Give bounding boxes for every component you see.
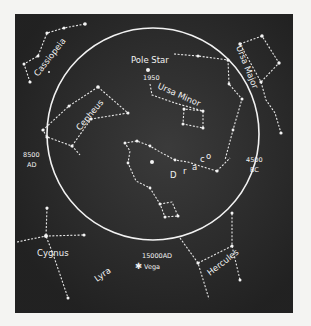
star: [45, 206, 48, 209]
star: [174, 159, 177, 162]
star: [182, 123, 185, 126]
star: [159, 203, 162, 206]
star: [70, 144, 73, 147]
star: [127, 112, 130, 115]
star: [45, 135, 48, 138]
star: [260, 34, 263, 37]
cygnus-crossbar: [17, 235, 84, 242]
cepheus-lines-2: [72, 87, 128, 146]
star: [215, 169, 218, 172]
label-15000-ad: 15000AD: [142, 252, 172, 260]
star: [164, 216, 167, 219]
label-draco-c: c: [200, 154, 205, 164]
label-ursa-major: Ursa Major: [234, 44, 261, 91]
star: [96, 85, 100, 89]
star-chart: Cassiopeia Ursa Major Pole Star 1950 Urs…: [0, 0, 311, 326]
star: [28, 80, 31, 83]
star: [63, 27, 66, 30]
label-cygnus: Cygnus: [37, 248, 69, 258]
label-draco-d: D: [170, 170, 177, 180]
label-draco-o: o: [206, 151, 211, 161]
label-draco-a: a: [192, 162, 197, 172]
star: [149, 187, 152, 190]
star: [136, 140, 139, 143]
label-lyra: Lyra: [92, 265, 112, 283]
label-year-1950: 1950: [143, 74, 160, 82]
star: [277, 61, 280, 64]
star: [37, 55, 40, 58]
label-cepheus: Cepheus: [74, 97, 106, 132]
star: [231, 212, 234, 215]
star: [183, 108, 186, 111]
label-hercules: Hercules: [205, 247, 241, 278]
star: [44, 234, 48, 238]
constellation-ursa-minor: Pole Star 1950 Ursa Minor: [131, 55, 205, 130]
star: [41, 128, 44, 131]
star: [68, 105, 71, 108]
star: [232, 129, 235, 132]
star: [202, 110, 205, 113]
star: [127, 162, 130, 165]
label-8500-year: 8500: [23, 151, 40, 159]
star: [197, 55, 200, 58]
label-draco-r: r: [183, 166, 187, 176]
star: [82, 233, 85, 236]
constellation-cygnus: Cygnus: [17, 206, 86, 299]
ursa-major-handle: [174, 54, 242, 160]
label-vega: Vega: [144, 263, 160, 271]
label-8500-era: AD: [27, 161, 36, 169]
star: [48, 71, 50, 73]
vega-star-icon: ✱: [135, 261, 142, 271]
star: [241, 98, 244, 101]
star: [149, 145, 152, 148]
label-4500-era: BC: [250, 166, 259, 174]
label-pole-star: Pole Star: [131, 55, 169, 65]
hercules-leg: [180, 238, 209, 299]
star: [202, 127, 205, 130]
constellation-cassiopeia: Cassiopeia: [23, 22, 87, 83]
draco-tail: [217, 158, 230, 171]
label-4500-year: 4500: [246, 156, 263, 164]
constellation-draco: D r a c o: [124, 140, 231, 219]
ursa-major-leg: [261, 82, 281, 133]
star: [150, 160, 154, 164]
pole-star: [146, 68, 150, 72]
star: [177, 215, 180, 218]
star: [83, 22, 87, 26]
star: [228, 83, 231, 86]
star: [226, 58, 229, 61]
star: [23, 63, 26, 66]
star: [196, 261, 199, 264]
star: [239, 279, 242, 282]
star: [67, 297, 70, 300]
star: [279, 131, 282, 134]
constellation-hercules: Hercules: [180, 212, 242, 300]
star: [124, 142, 127, 145]
star: [45, 31, 48, 34]
